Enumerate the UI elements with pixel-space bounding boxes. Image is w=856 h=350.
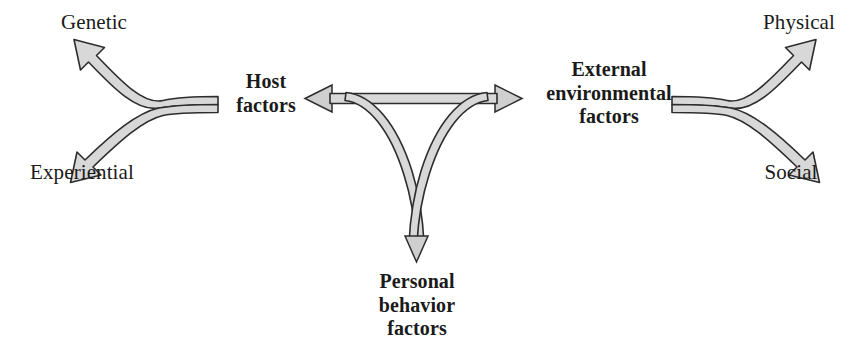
determinants-of-health-diagram: .ribbon { fill: #d8d8d8; stroke: #2d2d2d… [0, 0, 856, 350]
arrow-external-to-physical [672, 40, 816, 109]
node-label-personal-behavior-factors: Personal behavior factors [379, 270, 455, 341]
arrowhead-center-left [305, 85, 332, 112]
node-label-social: Social [764, 160, 817, 185]
arrowhead-center-right [495, 85, 522, 112]
arrowhead-center-down [405, 236, 428, 262]
arrow-host-to-genetic [74, 40, 218, 109]
node-label-host-factors: Host factors [236, 70, 296, 117]
node-label-genetic: Genetic [61, 10, 127, 35]
node-label-experiential: Experiential [30, 160, 134, 185]
node-label-external-environmental-factors: External environmental factors [546, 58, 671, 129]
node-label-physical: Physical [763, 10, 835, 35]
